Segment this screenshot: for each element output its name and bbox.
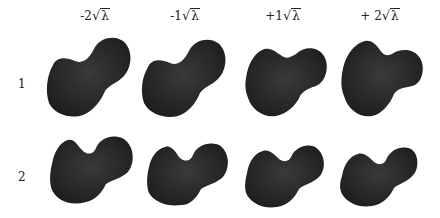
bone-shape-row2-col1 [46,128,146,218]
bone-shape-row1-col4 [338,34,438,124]
bone-shape-row2-col4 [336,136,436,218]
bone-shape-row1-col2 [138,33,238,123]
column-label-plus-2-sqrt-lambda: + 2√λ [340,8,420,23]
radicand: λ [100,8,110,23]
bone-shape-row1-col3 [240,36,340,126]
column-label-plus-1-sqrt-lambda: +1√λ [243,8,323,23]
row-label-1: 1 [18,77,26,91]
radicand: λ [291,8,301,23]
column-label-minus-1-sqrt-lambda: -1√λ [145,8,225,23]
row-label-2: 2 [18,170,26,184]
bone-shape-row1-col1 [43,33,143,123]
coefficient: + 2 [360,9,382,23]
radicand: λ [390,8,400,23]
column-label-minus-2-sqrt-lambda: -2√λ [55,8,135,23]
bone-shape-row2-col2 [143,133,243,218]
radicand: λ [190,8,200,23]
coefficient: +1 [265,9,283,23]
coefficient: -1 [170,9,182,23]
bone-shape-row2-col3 [241,135,341,218]
coefficient: -2 [80,9,92,23]
